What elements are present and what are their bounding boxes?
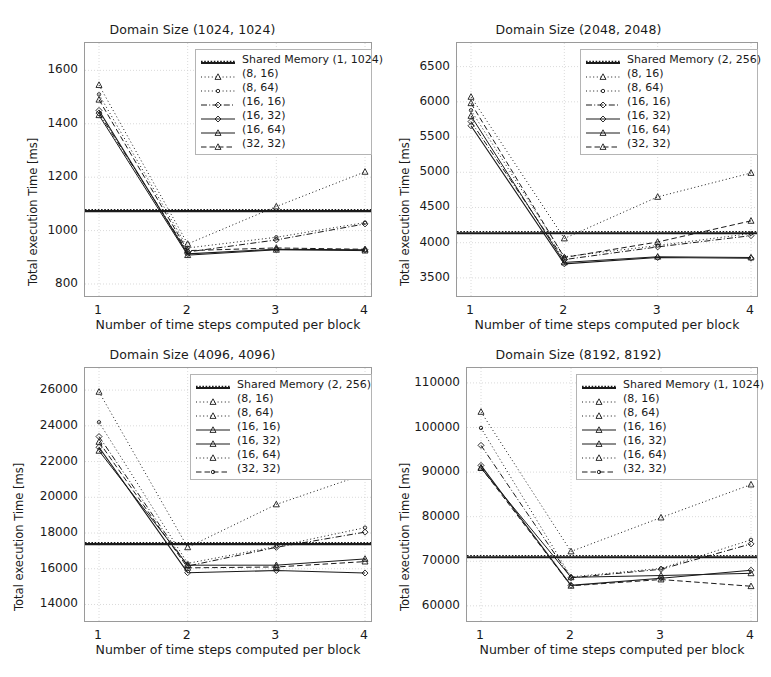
legend-line-sample <box>585 54 621 66</box>
legend-item: Shared Memory (2, 256) <box>195 378 366 392</box>
y-tick-label: 80000 <box>392 509 460 523</box>
legend-line-sample <box>195 421 231 433</box>
x-tick-label: 1 <box>94 302 102 317</box>
legend-item: (8, 64) <box>200 81 366 95</box>
x-tick-label: 2 <box>183 302 191 317</box>
y-tick-label: 4500 <box>382 199 450 213</box>
x-axis-label: Number of time steps computed per block <box>84 642 372 657</box>
x-tick-label: 1 <box>94 627 102 642</box>
legend-label: (8, 16) <box>237 393 274 405</box>
legend-item: Shared Memory (1, 1024) <box>200 53 366 67</box>
y-tick-label: 90000 <box>392 464 460 478</box>
legend-item: (16, 64) <box>585 123 752 137</box>
legend-item: (16, 16) <box>200 95 366 109</box>
y-tick-label: 6500 <box>382 59 450 73</box>
legend-item: (16, 16) <box>195 420 366 434</box>
legend-label: (16, 16) <box>623 421 667 433</box>
x-tick-label: 2 <box>566 627 574 642</box>
legend: Shared Memory (2, 256)(8, 16)(8, 64)(16,… <box>190 374 372 480</box>
legend: Shared Memory (2, 256)(8, 16)(8, 64)(16,… <box>580 49 758 155</box>
legend-line-sample <box>581 379 617 391</box>
legend-line-sample <box>195 449 231 461</box>
legend-line-sample <box>581 421 617 433</box>
legend-line-sample <box>200 54 236 66</box>
legend-label: (8, 16) <box>623 393 660 405</box>
legend-label: Shared Memory (1, 1024) <box>242 54 383 66</box>
x-axis-label: Number of time steps computed per block <box>84 317 372 332</box>
y-tick-label: 18000 <box>10 525 78 539</box>
x-tick-label: 3 <box>271 627 279 642</box>
legend-item: (32, 32) <box>581 462 752 476</box>
y-axis-label: Total execution Time [ms] <box>398 463 412 611</box>
y-tick-label: 110000 <box>392 375 460 389</box>
legend-label: (32, 32) <box>242 138 286 150</box>
subplot-title: Domain Size (8192, 8192) <box>386 347 771 362</box>
subplot-8192: Domain Size (8192, 8192) Total execution… <box>386 339 771 677</box>
legend-line-sample <box>200 124 236 136</box>
legend-item: (16, 32) <box>200 109 366 123</box>
legend-item: (8, 64) <box>581 406 752 420</box>
legend-line-sample <box>200 138 236 150</box>
legend-label: Shared Memory (2, 256) <box>237 379 371 391</box>
legend-line-sample <box>200 110 236 122</box>
legend-item: Shared Memory (2, 256) <box>585 53 752 67</box>
subplot-2048: Domain Size (2048, 2048) Total execution… <box>386 0 771 338</box>
legend-label: (16, 32) <box>242 110 286 122</box>
legend-label: (32, 32) <box>237 463 281 475</box>
subplot-4096: Domain Size (4096, 4096) Total execution… <box>0 339 385 677</box>
legend-item: (8, 16) <box>585 67 752 81</box>
legend-label: (16, 64) <box>237 449 281 461</box>
x-tick-label: 4 <box>360 627 368 642</box>
legend-label: (8, 16) <box>242 68 279 80</box>
y-tick-label: 24000 <box>10 418 78 432</box>
y-tick-label: 70000 <box>392 553 460 567</box>
y-tick-label: 22000 <box>10 454 78 468</box>
legend-label: (8, 64) <box>237 407 274 419</box>
legend-item: (8, 16) <box>200 67 366 81</box>
legend-label: (16, 16) <box>627 96 671 108</box>
x-tick-label: 1 <box>466 302 474 317</box>
legend-line-sample <box>585 68 621 80</box>
x-tick-label: 3 <box>271 302 279 317</box>
x-tick-label: 4 <box>746 302 754 317</box>
legend-item: (16, 64) <box>200 123 366 137</box>
legend-label: (8, 64) <box>242 82 279 94</box>
legend-line-sample <box>195 379 231 391</box>
subplot-title: Domain Size (4096, 4096) <box>0 347 385 362</box>
legend-item: (16, 64) <box>195 448 366 462</box>
legend-item: (32, 32) <box>585 137 752 151</box>
y-tick-label: 16000 <box>10 561 78 575</box>
figure-canvas: Domain Size (1024, 1024) Total execution… <box>0 0 771 677</box>
y-tick-label: 800 <box>10 276 78 290</box>
legend-item: (16, 32) <box>585 109 752 123</box>
y-tick-label: 6000 <box>382 94 450 108</box>
legend-label: (16, 16) <box>237 421 281 433</box>
legend-line-sample <box>195 435 231 447</box>
legend-item: (8, 64) <box>585 81 752 95</box>
y-tick-label: 100000 <box>392 420 460 434</box>
x-tick-label: 1 <box>476 627 484 642</box>
y-tick-label: 1600 <box>10 62 78 76</box>
legend-item: (16, 32) <box>195 434 366 448</box>
y-tick-label: 1000 <box>10 223 78 237</box>
legend-item: (32, 32) <box>195 462 366 476</box>
legend-line-sample <box>581 407 617 419</box>
subplot-title: Domain Size (1024, 1024) <box>0 22 385 37</box>
y-tick-label: 1200 <box>10 169 78 183</box>
legend-line-sample <box>200 68 236 80</box>
y-tick-label: 1400 <box>10 116 78 130</box>
legend-item: (32, 32) <box>200 137 366 151</box>
legend-line-sample <box>585 110 621 122</box>
legend-line-sample <box>195 393 231 405</box>
x-tick-label: 2 <box>183 627 191 642</box>
y-tick-label: 14000 <box>10 596 78 610</box>
y-tick-label: 60000 <box>392 598 460 612</box>
legend-item: (8, 16) <box>581 392 752 406</box>
legend-label: (16, 32) <box>237 435 281 447</box>
x-tick-label: 3 <box>653 302 661 317</box>
x-tick-label: 4 <box>360 302 368 317</box>
x-tick-label: 4 <box>746 627 754 642</box>
legend: Shared Memory (1, 1024)(8, 16)(8, 64)(16… <box>576 374 758 480</box>
x-axis-label: Number of time steps computed per block <box>466 642 758 657</box>
legend-item: (8, 16) <box>195 392 366 406</box>
